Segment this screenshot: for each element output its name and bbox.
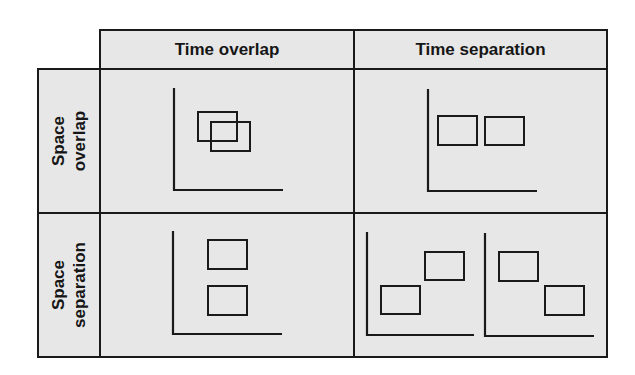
axes-icon (485, 233, 594, 336)
panel-space-separation-time-overlap (173, 231, 282, 334)
event-box-icon (499, 252, 538, 281)
event-box-icon (485, 117, 524, 145)
panel-space-overlap-time-overlap (174, 88, 283, 190)
event-box-icon (198, 112, 237, 141)
panel-space-separation-time-separation (367, 232, 594, 336)
event-box-icon (425, 252, 464, 280)
panel-space-overlap-time-separation (428, 89, 537, 191)
panel-drawings (0, 0, 635, 375)
event-box-icon (438, 116, 477, 145)
event-box-icon (545, 286, 584, 315)
axes-icon (367, 232, 474, 335)
event-box-icon (211, 122, 250, 151)
axes-icon (174, 88, 283, 190)
event-box-icon (208, 240, 247, 269)
axes-icon (428, 89, 537, 191)
event-box-icon (208, 286, 247, 315)
event-box-icon (381, 286, 420, 314)
axes-icon (173, 231, 282, 334)
